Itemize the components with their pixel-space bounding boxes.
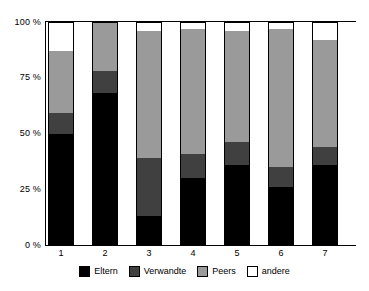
x-tick-label-6: 6 bbox=[268, 248, 294, 259]
chart-legend: Eltern Verwandte Peers andere bbox=[0, 266, 369, 277]
bar-group-7[interactable] bbox=[312, 22, 338, 245]
bar-3-segment-andere bbox=[136, 22, 162, 31]
bar-3-segment-eltern bbox=[136, 216, 162, 245]
legend-item-verwandte[interactable]: Verwandte bbox=[129, 266, 187, 277]
bar-6-segment-andere bbox=[268, 22, 294, 29]
legend-item-eltern[interactable]: Eltern bbox=[79, 266, 118, 277]
bar-group-4[interactable] bbox=[180, 22, 206, 245]
bar-5-segment-peers bbox=[224, 31, 250, 143]
legend-swatch-andere bbox=[247, 266, 258, 277]
x-tick-label-7: 7 bbox=[312, 248, 338, 259]
bar-2-segment-peers bbox=[92, 22, 118, 71]
bar-1-segment-eltern bbox=[48, 134, 74, 246]
legend-item-peers[interactable]: Peers bbox=[197, 266, 236, 277]
x-tick-label-3: 3 bbox=[136, 248, 162, 259]
bar-4-segment-andere bbox=[180, 22, 206, 29]
x-tick-label-1: 1 bbox=[48, 248, 74, 259]
bar-1-segment-peers bbox=[48, 51, 74, 113]
bar-4-segment-peers bbox=[180, 29, 206, 154]
bar-group-1[interactable] bbox=[48, 22, 74, 245]
bar-3-segment-verwandte bbox=[136, 158, 162, 216]
bar-3-segment-peers bbox=[136, 31, 162, 158]
bar-group-6[interactable] bbox=[268, 22, 294, 245]
bar-7-segment-verwandte bbox=[312, 147, 338, 165]
bar-4-segment-eltern bbox=[180, 178, 206, 245]
bar-2-segment-eltern bbox=[92, 93, 118, 245]
bar-group-3[interactable] bbox=[136, 22, 162, 245]
bar-7-segment-eltern bbox=[312, 165, 338, 245]
bar-4-segment-verwandte bbox=[180, 154, 206, 179]
legend-label-verwandte: Verwandte bbox=[144, 267, 187, 276]
bar-6-segment-verwandte bbox=[268, 167, 294, 187]
x-tick-label-5: 5 bbox=[224, 248, 250, 259]
bar-7-segment-andere bbox=[312, 22, 338, 40]
x-axis-tick-labels: 1 2 3 4 5 6 7 bbox=[46, 248, 355, 262]
bar-5-segment-andere bbox=[224, 22, 250, 31]
bar-1-segment-verwandte bbox=[48, 113, 74, 133]
x-tick-label-4: 4 bbox=[180, 248, 206, 259]
bar-6-segment-eltern bbox=[268, 187, 294, 245]
bar-7-segment-peers bbox=[312, 40, 338, 147]
x-tick-label-2: 2 bbox=[92, 248, 118, 259]
bar-2-segment-verwandte bbox=[92, 71, 118, 93]
legend-label-andere: andere bbox=[262, 267, 290, 276]
bar-5-segment-eltern bbox=[224, 165, 250, 245]
legend-label-eltern: Eltern bbox=[94, 267, 118, 276]
bar-5-segment-verwandte bbox=[224, 142, 250, 164]
bar-1-segment-andere bbox=[48, 22, 74, 51]
legend-item-andere[interactable]: andere bbox=[247, 266, 290, 277]
stacked-bar-chart: 100 % 75 % 50 % 25 % 0 % bbox=[0, 0, 369, 291]
legend-swatch-verwandte bbox=[129, 266, 140, 277]
plot-area bbox=[46, 22, 355, 245]
legend-swatch-eltern bbox=[79, 266, 90, 277]
bar-6-segment-peers bbox=[268, 29, 294, 167]
legend-label-peers: Peers bbox=[212, 267, 236, 276]
bar-group-5[interactable] bbox=[224, 22, 250, 245]
legend-swatch-peers bbox=[197, 266, 208, 277]
bar-group-2[interactable] bbox=[92, 22, 118, 245]
